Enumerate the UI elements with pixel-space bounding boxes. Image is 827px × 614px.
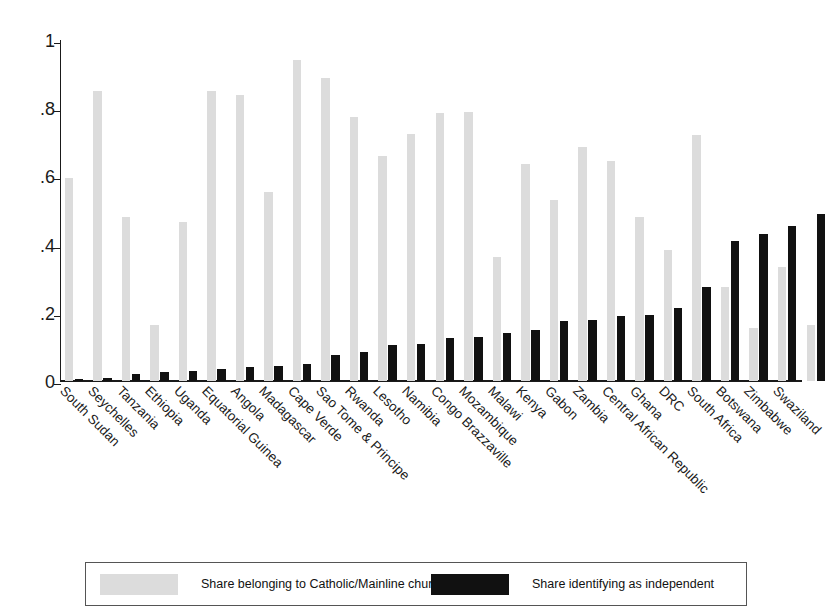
legend-swatch-black: [431, 574, 509, 595]
bar: [521, 164, 530, 381]
bar: [160, 372, 169, 381]
bar: [150, 325, 159, 381]
bar: [464, 112, 473, 381]
bar: [721, 287, 730, 381]
bar: [132, 374, 141, 381]
legend-entry: Share identifying as independent: [431, 563, 714, 605]
bar: [103, 378, 112, 381]
bar: [179, 222, 188, 381]
bar: [350, 117, 359, 381]
bar: [778, 267, 787, 381]
bar: [331, 355, 340, 381]
bar: [264, 192, 273, 381]
bar: [731, 241, 740, 381]
y-tick-label: .2: [40, 305, 55, 323]
bar: [702, 287, 711, 381]
legend-label: Share identifying as independent: [532, 577, 714, 591]
y-tick-label: .8: [40, 100, 55, 118]
bar: [749, 328, 758, 381]
bar: [274, 366, 283, 381]
legend-label: Share belonging to Catholic/Mainline chu…: [201, 577, 459, 591]
bar: [360, 352, 369, 381]
bar: [189, 371, 198, 381]
bar: [246, 367, 255, 381]
bar: [635, 217, 644, 381]
bar: [503, 333, 512, 381]
bar: [531, 330, 540, 381]
bar: [93, 91, 102, 381]
bar: [578, 147, 587, 381]
bar: [436, 113, 445, 381]
legend-entry: Share belonging to Catholic/Mainline chu…: [100, 563, 459, 605]
bar: [493, 257, 502, 381]
bar: [446, 338, 455, 381]
bar: [236, 95, 245, 381]
bar: [122, 217, 131, 381]
bar: [692, 135, 701, 381]
bar: [75, 379, 84, 381]
bar: [817, 214, 826, 381]
y-tick-label: 1: [45, 32, 55, 50]
y-tick-label: .6: [40, 168, 55, 186]
bar: [664, 250, 673, 381]
bar: [607, 161, 616, 381]
bar: [617, 316, 626, 381]
bar: [407, 134, 416, 381]
bar: [217, 369, 226, 381]
bar: [321, 78, 330, 381]
bar: [645, 315, 654, 381]
bar: [788, 226, 797, 381]
bar: [388, 345, 397, 381]
bar: [378, 156, 387, 381]
y-tick-label: 0: [45, 373, 55, 391]
bar: [560, 321, 569, 381]
x-axis-labels: South SudanSeychellesTanzaniaEthiopiaUga…: [60, 384, 820, 514]
bar: [65, 178, 74, 381]
bar: [550, 200, 559, 381]
chart-legend: Share belonging to Catholic/Mainline chu…: [85, 562, 747, 606]
legend-swatch-gray: [100, 574, 178, 595]
bar: [474, 337, 483, 381]
bar: [674, 308, 683, 381]
plot-area: 0.2.4.6.81: [60, 40, 804, 385]
bar: [807, 325, 816, 381]
bar: [293, 60, 302, 381]
bar: [759, 234, 768, 381]
bar: [588, 320, 597, 381]
bar-chart-figure: 0.2.4.6.81 South SudanSeychellesTanzania…: [0, 0, 827, 614]
bar: [417, 344, 426, 382]
bar-series-container: [60, 40, 802, 381]
bar: [207, 91, 216, 381]
bar: [303, 364, 312, 381]
y-tick-label: .4: [40, 237, 55, 255]
